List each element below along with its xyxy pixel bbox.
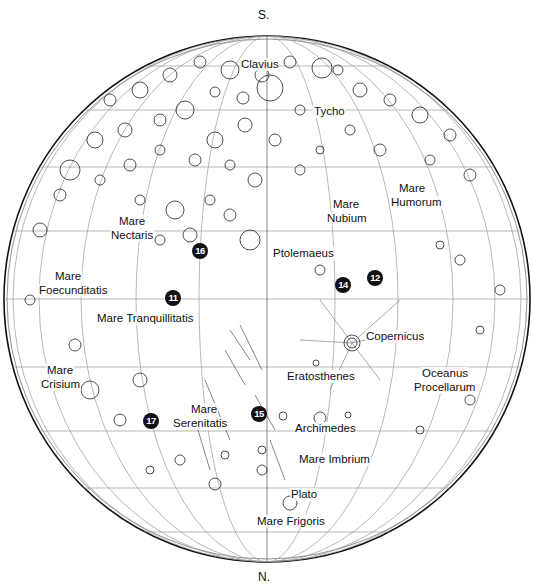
label-mare-serenitatis: Serenitatis [172,417,228,430]
label-archimedes: Archimedes [294,422,357,435]
label-mare-humorum: Mare [398,182,426,195]
label-mare-tranquillitatis: Mare Tranquillitatis [96,312,195,325]
label-mare-foecunditatis: Foecunditatis [38,284,108,297]
label-oceanus-procellarum: Oceanus [421,367,469,380]
landing-site-17-marker[interactable]: 17 [143,413,159,429]
label-tycho: Tycho [313,105,346,118]
label-mare-serenitatis: Mare [190,403,218,416]
label-mare-crisium: Crisium [40,378,81,391]
label-mare-nectaris: Mare [118,215,146,228]
label-plato: Plato [290,488,318,501]
landing-site-15-marker[interactable]: 15 [251,406,267,422]
label-mare-nectaris: Nectaris [110,229,154,242]
label-mare-frigoris: Mare Frigoris [256,515,326,528]
label-mare-foecunditatis: Mare [54,270,82,283]
north-pole-label: N. [258,570,270,584]
landing-site-12-marker[interactable]: 12 [367,270,383,286]
label-mare-crisium: Mare [46,364,74,377]
landing-site-11-marker[interactable]: 11 [165,290,181,306]
label-eratosthenes: Eratosthenes [286,370,356,383]
landing-site-14-marker[interactable]: 14 [335,277,351,293]
landing-site-16-marker[interactable]: 16 [192,243,208,259]
label-mare-imbrium: Mare Imbrium [298,453,371,466]
label-copernicus: Copernicus [365,330,425,343]
label-mare-nubium: Mare [332,198,360,211]
label-mare-humorum: Humorum [390,196,442,209]
label-clavius: Clavius [240,58,280,71]
south-pole-label: S. [258,8,269,22]
label-oceanus-procellarum: Procellarum [413,381,476,394]
label-mare-nubium: Nubium [326,212,368,225]
label-ptolemaeus: Ptolemaeus [272,247,335,260]
